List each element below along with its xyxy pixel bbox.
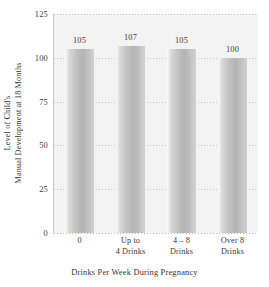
x-tick-label-line: 4 – 8 [170, 236, 193, 247]
y-tick-label-50: 50 [39, 141, 48, 150]
bar-chart-figure: Level of Child's Manual Development at 1… [0, 0, 269, 287]
bar-value-label: 107 [124, 33, 137, 42]
x-tick-label-line: Over 8 [221, 236, 244, 247]
y-tick-label-25: 25 [39, 185, 48, 194]
y-axis-title: Level of Child's Manual Development at 1… [0, 16, 26, 230]
x-tick-label: 4 – 8Drinks [170, 236, 193, 257]
bar [167, 49, 196, 233]
x-tick-label: Over 8Drinks [221, 236, 244, 257]
x-tick-label: 0 [77, 236, 81, 247]
y-tick-label-0: 0 [44, 229, 48, 238]
x-axis-title: Drinks Per Week During Pregnancy [0, 268, 269, 277]
x-tick-label-line: Drinks [221, 247, 244, 258]
y-axis-title-line-1: Level of Child's [2, 62, 13, 183]
x-tick-label: Up to4 Drinks [116, 236, 146, 257]
y-tick-label-75: 75 [39, 97, 48, 106]
bar-value-label: 105 [175, 36, 188, 45]
bar [218, 58, 247, 233]
gridline-125 [54, 14, 258, 15]
x-tick-label-line: Drinks [170, 247, 193, 258]
bar-value-label: 105 [73, 36, 86, 45]
y-tick-label-100: 100 [35, 53, 48, 62]
y-tick-label-125: 125 [35, 10, 48, 19]
x-tick-label-line: 0 [77, 236, 81, 247]
y-axis-title-line-2: Manual Development at 18 Months [13, 62, 24, 183]
bar [116, 46, 145, 233]
x-tick-label-line: Up to [116, 236, 146, 247]
x-axis-tick-labels: 0Up to4 Drinks4 – 8DrinksOver 8Drinks [54, 236, 258, 262]
bar-value-label: 100 [226, 45, 239, 54]
y-axis-title-text: Level of Child's Manual Development at 1… [2, 62, 24, 183]
bar [65, 49, 94, 233]
y-axis-tick-labels: 0255075100125 [24, 0, 51, 287]
x-tick-label-line: 4 Drinks [116, 247, 146, 258]
gridline-0 [54, 233, 258, 234]
